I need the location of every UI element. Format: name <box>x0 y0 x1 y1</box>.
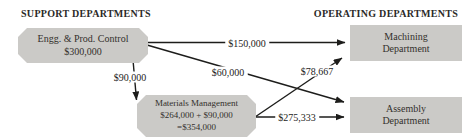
flow-label-engg-to-machining: $150,000 <box>225 38 269 49</box>
assembly-node-line2: Department <box>382 115 429 127</box>
flow-label-engg-to-materials: $90,000 <box>111 72 150 83</box>
machining-node-line2: Department <box>382 43 429 55</box>
node-materials-management: Materials Management $264,000 + $90,000 … <box>137 95 256 137</box>
cost-allocation-diagram: SUPPORT DEPARTMENTS OPERATING DEPARTMENT… <box>0 0 469 140</box>
materials-node-name: Materials Management <box>155 98 238 110</box>
assembly-node-line1: Assembly <box>386 103 426 115</box>
machining-node-line1: Machining <box>384 31 427 43</box>
engg-node-amount: $300,000 <box>64 46 102 58</box>
node-engg-prod-control: Engg. & Prod. Control $300,000 <box>18 28 148 63</box>
flow-label-materials-to-machining: $78,667 <box>298 66 337 77</box>
materials-node-calc: $264,000 + $90,000 <box>160 110 233 122</box>
node-machining-department: Machining Department <box>350 25 462 61</box>
node-assembly-department: Assembly Department <box>350 97 462 133</box>
flow-label-engg-to-assembly: $60,000 <box>209 67 248 78</box>
materials-node-total: =$354,000 <box>177 122 216 134</box>
engg-node-name: Engg. & Prod. Control <box>38 33 129 45</box>
flow-label-materials-to-assembly: $275,333 <box>275 112 319 123</box>
